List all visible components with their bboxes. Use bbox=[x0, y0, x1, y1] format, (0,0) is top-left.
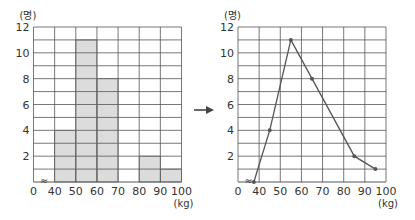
chart-canvas: ≈246810120405060708090100(명)(kg)≈2468101… bbox=[0, 0, 415, 220]
data-point bbox=[373, 167, 377, 171]
x-tick-label: 70 bbox=[316, 185, 330, 198]
data-point bbox=[268, 128, 272, 132]
x-unit-label: (kg) bbox=[378, 198, 398, 209]
x-tick-label: 90 bbox=[358, 185, 372, 198]
data-point bbox=[310, 77, 314, 81]
x-tick-label: 60 bbox=[294, 185, 308, 198]
histogram-chart: ≈246810120405060708090100(명)(kg) bbox=[16, 10, 194, 209]
y-tick-label: 8 bbox=[23, 73, 30, 86]
polygon-chart: ≈246810120405060708090100(명)(kg) bbox=[220, 10, 398, 209]
y-tick-label: 4 bbox=[23, 124, 30, 137]
histogram-bar bbox=[160, 169, 181, 182]
x-tick-label: 60 bbox=[90, 185, 104, 198]
y-tick-label: 2 bbox=[227, 150, 234, 163]
histogram-bar bbox=[76, 40, 97, 182]
right-arrow-icon bbox=[194, 106, 214, 114]
y-tick-label: 8 bbox=[227, 73, 234, 86]
x-tick-label: 50 bbox=[273, 185, 287, 198]
x-tick-label: 0 bbox=[30, 185, 37, 198]
data-point bbox=[352, 154, 356, 158]
x-tick-label: 100 bbox=[376, 185, 397, 198]
x-tick-label: 40 bbox=[48, 185, 62, 198]
y-tick-label: 12 bbox=[220, 21, 234, 34]
frequency-polygon-line bbox=[254, 40, 376, 182]
x-tick-label: 90 bbox=[153, 185, 167, 198]
y-tick-label: 6 bbox=[227, 99, 234, 112]
y-tick-label: 10 bbox=[16, 47, 30, 60]
data-point bbox=[289, 38, 293, 42]
y-unit-label: (명) bbox=[20, 10, 37, 21]
x-tick-label: 50 bbox=[69, 185, 83, 198]
y-tick-label: 6 bbox=[23, 99, 30, 112]
x-tick-label: 40 bbox=[252, 185, 266, 198]
x-tick-label: 80 bbox=[132, 185, 146, 198]
grid bbox=[238, 27, 386, 182]
y-unit-label: (명) bbox=[224, 10, 241, 21]
x-tick-label: 0 bbox=[235, 185, 242, 198]
y-tick-label: 2 bbox=[23, 150, 30, 163]
x-tick-label: 100 bbox=[171, 185, 192, 198]
x-tick-label: 80 bbox=[337, 185, 351, 198]
y-tick-label: 12 bbox=[16, 21, 30, 34]
y-tick-label: 4 bbox=[227, 124, 234, 137]
y-tick-label: 10 bbox=[220, 47, 234, 60]
x-unit-label: (kg) bbox=[174, 198, 194, 209]
x-tick-label: 70 bbox=[111, 185, 125, 198]
